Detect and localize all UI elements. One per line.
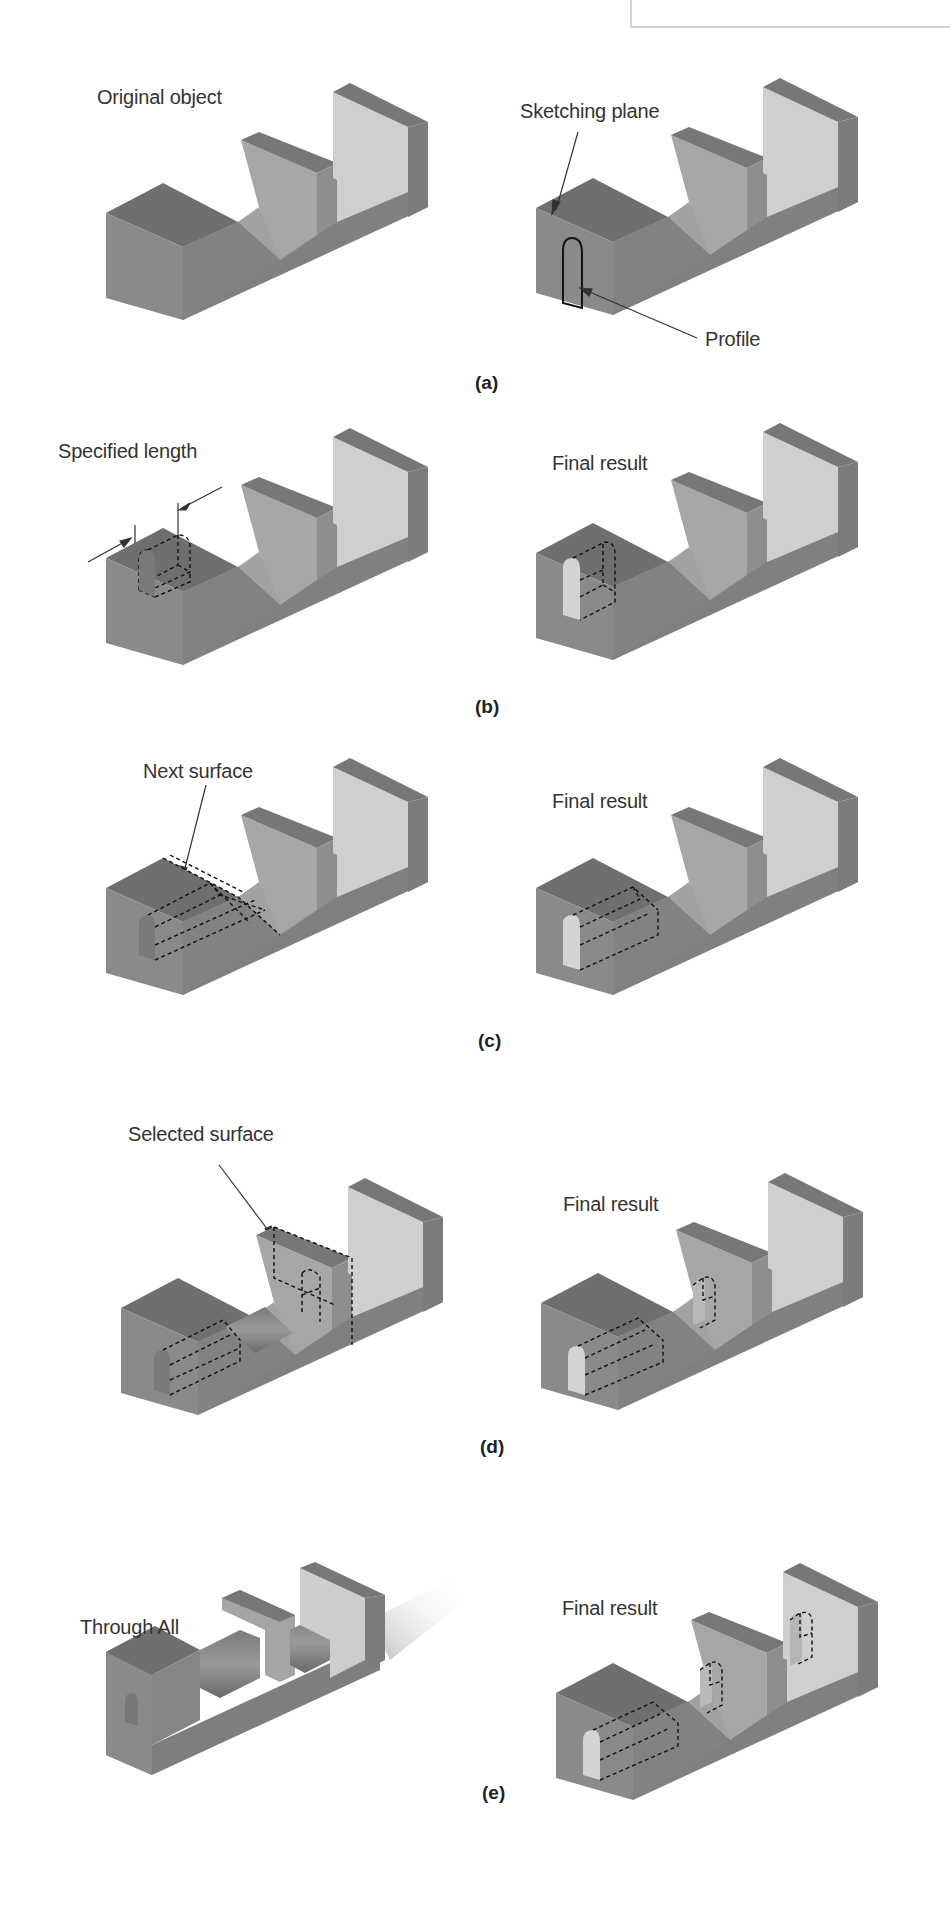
figure-e-through-all	[100, 1560, 440, 1820]
panel-label-a: (a)	[475, 372, 498, 394]
callout-original-object: Original object	[97, 86, 222, 109]
panel-label-d: (d)	[480, 1436, 504, 1458]
figure-a-original-object	[100, 80, 440, 340]
figure-c-next-surface	[100, 755, 440, 1015]
callout-final-result-c: Final result	[552, 790, 647, 813]
panel-label-e: (e)	[482, 1782, 505, 1804]
panel-label-c: (c)	[478, 1030, 501, 1052]
callout-final-result-d: Final result	[563, 1193, 658, 1216]
callout-next-surface: Next surface	[143, 760, 253, 783]
callout-final-result-b: Final result	[552, 452, 647, 475]
callout-sketching-plane: Sketching plane	[520, 100, 659, 123]
callout-specified-length: Specified length	[58, 440, 197, 463]
figure-d-selected-surface	[115, 1175, 455, 1435]
callout-selected-surface: Selected surface	[128, 1123, 274, 1146]
callout-through-all: Through All	[80, 1616, 179, 1639]
panel-label-b: (b)	[475, 696, 499, 718]
figure-b-specified-length	[100, 425, 440, 685]
header-box-fragment	[630, 0, 950, 28]
callout-final-result-e: Final result	[562, 1597, 657, 1620]
callout-profile: Profile	[705, 328, 760, 351]
